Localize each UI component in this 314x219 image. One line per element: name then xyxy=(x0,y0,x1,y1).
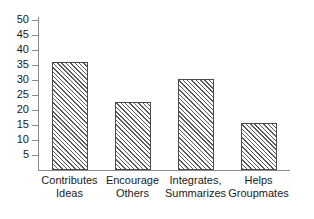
y-axis-tick-label: 30 xyxy=(5,74,29,85)
y-axis-tick-label: 45 xyxy=(5,29,29,40)
x-axis-label: Helps Groupmates xyxy=(215,174,303,199)
x-axis-line xyxy=(38,170,290,171)
bar xyxy=(241,123,277,170)
y-axis-tick-label: 15 xyxy=(5,119,29,130)
bar xyxy=(115,102,151,170)
y-axis-tick-label: 50 xyxy=(5,14,29,25)
bar xyxy=(52,62,88,170)
y-axis-tick-label: 20 xyxy=(5,104,29,115)
y-axis-tick-label: 35 xyxy=(5,59,29,70)
y-axis-tick-label: 10 xyxy=(5,134,29,145)
bar-chart: 5101520253035404550 Contributes IdeasEnc… xyxy=(0,0,314,219)
y-axis-tick-label: 25 xyxy=(5,89,29,100)
y-axis-tick-label: 5 xyxy=(5,149,29,160)
plot-area xyxy=(38,14,290,170)
y-axis-tick-label: 40 xyxy=(5,44,29,55)
bar xyxy=(178,79,214,171)
